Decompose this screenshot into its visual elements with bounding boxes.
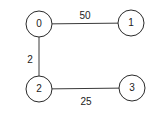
node-label: 0 [36,18,42,29]
graph-node-2: 2 [26,76,52,102]
graph-node-3: 3 [119,75,145,101]
node-label: 2 [36,83,42,94]
weighted-graph-diagram: 50225 0123 [0,0,161,118]
node-label: 3 [129,82,135,93]
edge-weight-label: 50 [79,10,91,21]
graph-node-1: 1 [118,10,144,36]
edge-weight-label: 25 [80,96,92,107]
edge-0-1 [52,23,118,24]
edge-weight-label: 2 [27,54,33,65]
edge-2-3 [52,88,119,89]
node-label: 1 [128,17,134,28]
graph-node-0: 0 [26,11,52,37]
